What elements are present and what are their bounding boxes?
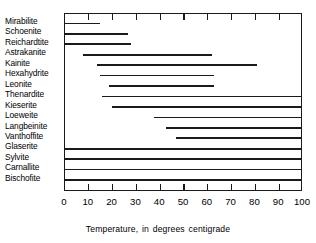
stability-range-chart: MirabiliteSchoeniteReichardtiteAstrakani… xyxy=(0,0,316,243)
x-tick-label-60: 60 xyxy=(201,196,212,208)
x-tick-label-50: 50 xyxy=(178,196,189,208)
bar-glaserite xyxy=(64,148,302,150)
category-label-schoenite: Schoenite xyxy=(0,26,59,36)
x-tick-label-0: 0 xyxy=(61,196,66,208)
category-label-langbeinite: Langbeinite xyxy=(0,121,59,131)
bar-kainite xyxy=(97,64,256,66)
bars-layer xyxy=(64,13,302,191)
category-label-vanthoffite: Vanthoffite xyxy=(0,131,59,141)
bar-sylvite xyxy=(64,158,302,160)
x-tick-label-10: 10 xyxy=(82,196,93,208)
category-label-hexahydrite: Hexahydrite xyxy=(0,68,59,78)
x-tick-label-100: 100 xyxy=(294,196,310,208)
bar-carnallite xyxy=(64,169,302,171)
bar-bischofite xyxy=(64,179,302,181)
category-axis-labels: MirabiliteSchoeniteReichardtiteAstrakani… xyxy=(0,12,62,180)
bar-langbeinite xyxy=(166,127,302,129)
category-label-bischofite: Bischofite xyxy=(0,173,59,183)
x-tick-label-80: 80 xyxy=(249,196,260,208)
category-label-leonite: Leonite xyxy=(0,79,59,89)
bar-loeweite xyxy=(154,117,302,119)
category-label-mirabilite: Mirabilite xyxy=(0,16,59,26)
bar-leonite xyxy=(109,85,214,87)
category-label-kieserite: Kieserite xyxy=(0,100,59,110)
x-tick-label-90: 90 xyxy=(273,196,284,208)
category-label-reichardtite: Reichardtite xyxy=(0,37,59,47)
category-label-carnallite: Carnallite xyxy=(0,162,59,172)
bar-vanthoffite xyxy=(176,137,302,139)
bar-hexahydrite xyxy=(100,75,214,77)
bar-thenardite xyxy=(102,96,302,98)
x-tick-label-20: 20 xyxy=(106,196,117,208)
bar-reichardtite xyxy=(64,43,131,45)
category-label-sylvite: Sylvite xyxy=(0,152,59,162)
x-axis-title: Temperature, in degrees centigrade xyxy=(0,224,316,234)
category-label-kainite: Kainite xyxy=(0,58,59,68)
category-label-loeweite: Loeweite xyxy=(0,110,59,120)
x-tick-label-70: 70 xyxy=(225,196,236,208)
category-label-thenardite: Thenardite xyxy=(0,89,59,99)
x-axis-tick-labels: 0102030405060708090100 xyxy=(0,196,316,210)
category-label-glaserite: Glaserite xyxy=(0,141,59,151)
bar-mirabilite xyxy=(64,23,100,25)
x-tick-label-40: 40 xyxy=(154,196,165,208)
x-tick-label-30: 30 xyxy=(130,196,141,208)
bar-schoenite xyxy=(64,33,128,35)
category-label-astrakanite: Astrakanite xyxy=(0,47,59,57)
bar-astrakanite xyxy=(83,54,212,56)
bar-kieserite xyxy=(112,106,302,108)
